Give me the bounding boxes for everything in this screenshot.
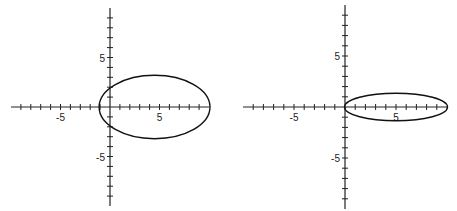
plot-left: -555-5 (11, 8, 210, 206)
plot-right: -555-5 (243, 5, 448, 209)
x-tick-label: -5 (56, 112, 65, 123)
y-tick-label: -5 (331, 153, 340, 164)
chart-canvas: -555-5 -555-5 (0, 0, 457, 211)
y-tick-label: -5 (96, 152, 105, 163)
x-tick-label: -5 (290, 112, 299, 123)
x-tick-label: 5 (157, 112, 163, 123)
y-tick-label: 5 (99, 53, 105, 64)
y-tick-label: 5 (334, 51, 340, 62)
